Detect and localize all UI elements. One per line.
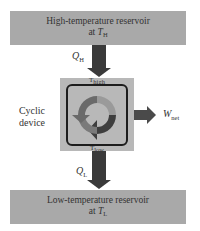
work-out-arrow-icon	[134, 110, 148, 120]
low-reservoir-title: Low-temperature reservoir	[10, 195, 186, 206]
high-reservoir-title: High-temperature reservoir	[10, 16, 186, 27]
low-temperature-reservoir: Low-temperature reservoir at TL	[10, 190, 186, 224]
cycle-arrows-icon	[72, 90, 122, 140]
low-reservoir-temp: at TL	[10, 206, 186, 219]
cyclic-device-label: Cyclic device	[8, 105, 56, 129]
heat-out-label: QL	[76, 165, 87, 178]
heat-out-arrow-icon	[92, 151, 106, 181]
net-work-label: Wnet	[163, 108, 179, 121]
heat-in-label: QH	[72, 50, 84, 63]
heat-in-arrow-icon	[92, 45, 106, 69]
cyclic-device: Thigh Tlow	[60, 78, 134, 151]
high-reservoir-temp: at TH	[10, 27, 186, 40]
high-temperature-reservoir: High-temperature reservoir at TH	[10, 11, 186, 45]
